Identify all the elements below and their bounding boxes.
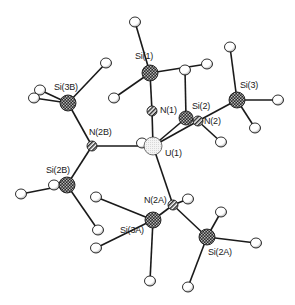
bond-si1-h1c [150,64,207,73]
atom-si1-icon [142,65,158,81]
atom-label-si2b: Si(2B) [46,166,70,175]
atom-n1-icon [147,106,157,116]
atom-label-n2: N(2) [204,117,221,126]
atom-si2b-icon [59,177,75,193]
terminal-atom-icon [250,123,261,133]
atom-label-u1: U(1) [165,149,182,158]
terminal-atom-icon [183,282,194,292]
terminal-atom-icon [273,95,284,105]
atom-label-n2a: N(2A) [144,196,167,205]
bond-si3a-h3ac [150,220,153,281]
terminal-atom-icon [216,137,227,147]
terminal-atom-icon [93,225,104,235]
terminal-atom-icon [91,192,102,202]
terminal-atom-icon [202,59,213,69]
terminal-atom-icon [251,238,262,248]
terminal-atom-icon [216,207,227,217]
atom-si3a-icon [145,212,161,228]
terminal-atom-icon [145,276,156,286]
atom-si2a-icon [199,229,215,245]
terminal-atom-icon [109,93,120,103]
atom-n2a-icon [168,200,178,210]
atom-n2-icon [193,116,203,126]
terminal-atom-icon [130,17,141,27]
terminal-atom-icon [183,194,194,204]
terminal-atom-icon [29,93,40,103]
atom-si3b-icon [60,95,76,111]
atom-label-si3b: Si(3B) [54,83,78,92]
atom-label-si1: Si(1) [135,52,153,61]
terminal-atom-icon [180,65,191,75]
terminal-atom-icon [101,58,112,68]
atom-u1-icon [144,137,162,155]
molecular-structure-diagram [0,0,295,305]
atom-label-si3a: Si(3A) [120,226,144,235]
atom-label-n2b: N(2B) [89,128,112,137]
atom-label-si2: Si(2) [192,102,210,111]
terminal-atom-icon [225,42,236,52]
terminal-atom-icon [16,189,27,199]
atom-si2-icon [179,111,193,125]
atom-si3-icon [229,92,245,108]
atom-n2b-icon [87,141,97,151]
atom-label-si2a: Si(2A) [208,248,232,257]
atom-label-n1: N(1) [160,106,177,115]
atom-label-si3: Si(3) [240,81,258,90]
terminal-atom-icon [49,180,60,190]
terminal-atom-icon [91,243,102,253]
